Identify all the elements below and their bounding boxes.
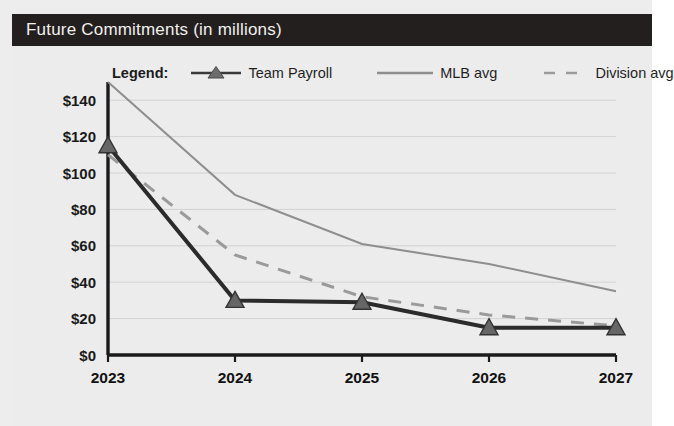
series-line-mlb-avg <box>108 82 616 291</box>
y-axis-tick-label: $140 <box>63 92 96 109</box>
x-axis-tick-label: 2025 <box>345 369 380 386</box>
data-point-marker <box>99 137 117 153</box>
x-axis-tick-label: 2027 <box>599 369 633 386</box>
chart-gridlines <box>108 100 616 318</box>
y-axis-tick-label: $60 <box>71 237 96 254</box>
y-axis-tick-label: $20 <box>71 310 96 327</box>
y-axis-tick-label: $40 <box>71 274 96 291</box>
chart-title-bar: Future Commitments (in millions) <box>12 14 652 46</box>
x-axis-tick-label: 2026 <box>472 369 507 386</box>
chart-series-layer <box>99 82 625 335</box>
page-title: Future Commitments (in millions) <box>12 20 282 40</box>
x-axis-tick-labels: 20232024202520262027 <box>91 369 633 386</box>
line-chart-svg: $0$20$40$60$80$100$120$140 2023202420252… <box>12 46 652 426</box>
y-axis-tick-label: $0 <box>79 347 96 364</box>
y-axis-tick-labels: $0$20$40$60$80$100$120$140 <box>63 92 96 364</box>
x-axis-tick-label: 2023 <box>91 369 126 386</box>
x-axis-tick-label: 2024 <box>218 369 253 386</box>
y-axis-tick-label: $80 <box>71 201 96 218</box>
y-axis-tick-label: $120 <box>63 128 96 145</box>
y-axis-tick-label: $100 <box>63 165 96 182</box>
chart-plot-panel: Legend: Team Payroll MLB avg Division av <box>12 46 652 426</box>
